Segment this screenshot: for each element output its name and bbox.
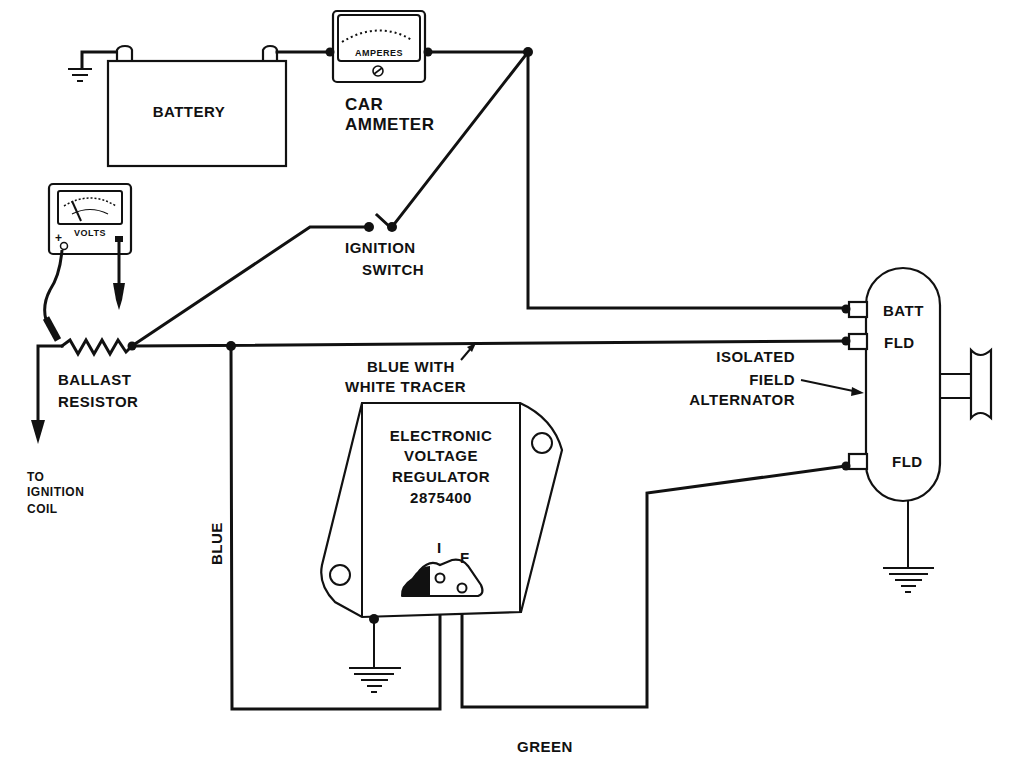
ignition-coil-label-line2: IGNITION bbox=[27, 485, 84, 499]
alternator-pulley-icon bbox=[940, 350, 991, 418]
regulator-terminal-i: I bbox=[437, 539, 442, 556]
green-wire-label: GREEN bbox=[517, 738, 573, 755]
battery: BATTERY bbox=[68, 46, 286, 166]
ballast-resistor-label-line2: RESISTOR bbox=[58, 393, 138, 410]
down-arrow-icon bbox=[31, 420, 45, 444]
blue-white-label-line2: WHITE TRACER bbox=[345, 378, 466, 395]
alternator-label-line2: FIELD bbox=[749, 371, 795, 388]
ammeter-adjust-screw-icon bbox=[373, 66, 383, 76]
battery-label: BATTERY bbox=[153, 103, 226, 120]
electronic-voltage-regulator: ELECTRONIC VOLTAGE REGULATOR 2875400 I F bbox=[321, 403, 562, 692]
isolated-field-alternator: BATT FLD FLD ISOLATED FIELD ALTERNATOR bbox=[689, 268, 991, 592]
alternator-terminal-fld-lower: FLD bbox=[892, 453, 923, 470]
ignition-switch-label-line2: SWITCH bbox=[362, 261, 424, 278]
regulator-label-line3: REGULATOR bbox=[392, 468, 490, 485]
voltmeter: VOLTS + bbox=[45, 184, 131, 340]
blue-wire-label: BLUE bbox=[208, 522, 225, 565]
ammeter-label-line2: AMMETER bbox=[345, 115, 434, 134]
pointer-arrow-icon bbox=[851, 387, 864, 396]
ammeter-label-line1: CAR bbox=[345, 95, 383, 114]
battery-positive-post bbox=[263, 46, 277, 62]
ignition-switch: IGNITION SWITCH bbox=[345, 215, 424, 278]
alternator-ground-icon bbox=[883, 501, 934, 592]
mounting-hole-icon bbox=[330, 565, 350, 585]
battery-negative-post bbox=[117, 46, 132, 62]
regulator-label-line1: ELECTRONIC bbox=[390, 427, 493, 444]
regulator-label-line2: VOLTAGE bbox=[404, 447, 478, 464]
regulator-part-number: 2875400 bbox=[410, 489, 472, 506]
regulator-ground-icon bbox=[349, 619, 401, 692]
ammeter-dial-label: AMPERES bbox=[355, 48, 403, 58]
car-ammeter: AMPERES CAR AMMETER bbox=[326, 11, 435, 134]
ignition-coil-label-line1: TO bbox=[27, 470, 44, 484]
alternator-label-line3: ALTERNATOR bbox=[689, 391, 795, 408]
blue-white-label-line1: BLUE WITH bbox=[367, 358, 455, 375]
ignition-switch-label-line1: IGNITION bbox=[345, 239, 416, 256]
voltmeter-dial-label: VOLTS bbox=[74, 228, 106, 238]
ignition-coil-label-line3: COIL bbox=[27, 502, 58, 516]
regulator-terminal-f: F bbox=[460, 549, 470, 566]
ballast-resistor: BALLAST RESISTOR bbox=[58, 340, 138, 410]
charging-system-wiring-diagram: BATTERY AMPERES CAR AMMETER IGNITION SWI… bbox=[0, 0, 1016, 767]
alternator-terminal-fld-upper: FLD bbox=[884, 334, 915, 351]
alternator-terminal-batt: BATT bbox=[883, 302, 924, 319]
mounting-hole-icon bbox=[532, 433, 552, 453]
ballast-resistor-label-line1: BALLAST bbox=[58, 371, 132, 388]
alternator-label-line1: ISOLATED bbox=[716, 348, 795, 365]
voltmeter-probe-clip-icon bbox=[113, 283, 125, 310]
